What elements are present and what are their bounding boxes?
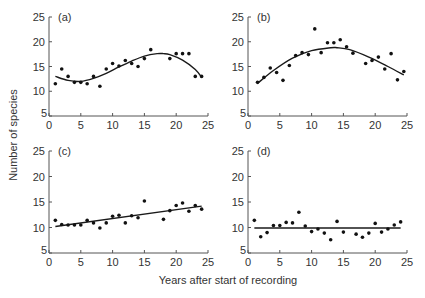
data-point: [136, 65, 140, 69]
x-tick-label: 20: [170, 119, 182, 131]
data-point: [181, 52, 185, 56]
x-tick-label: 15: [138, 119, 150, 131]
data-point: [174, 204, 178, 208]
data-point: [193, 204, 197, 208]
data-point: [313, 27, 317, 31]
x-tick-label: 25: [401, 256, 413, 268]
data-point: [265, 231, 269, 235]
y-tick-label: 15: [232, 196, 244, 208]
x-tick-label: 10: [106, 256, 118, 268]
data-point: [329, 238, 333, 242]
data-point: [361, 235, 365, 239]
data-point: [383, 67, 387, 71]
fit-line: [55, 206, 201, 226]
panel-label: (d): [257, 145, 270, 157]
y-tick-label: 15: [33, 196, 45, 208]
data-point: [117, 213, 121, 217]
data-point: [143, 199, 147, 203]
data-point: [316, 227, 320, 231]
y-tick-label: 20: [33, 171, 45, 183]
data-point: [54, 82, 58, 86]
data-point: [288, 64, 292, 68]
y-tick-label: 25: [232, 145, 244, 157]
x-tick-label: 5: [277, 119, 283, 131]
data-point: [149, 48, 153, 52]
data-point: [332, 41, 336, 45]
data-point: [111, 214, 115, 218]
x-tick-label: 10: [305, 119, 317, 131]
x-tick-label: 5: [78, 119, 84, 131]
x-tick-label: 0: [245, 119, 251, 131]
data-point: [200, 75, 204, 79]
panel-a: 5101520250510152025(a): [33, 11, 214, 131]
x-tick-label: 20: [369, 119, 381, 131]
data-point: [124, 59, 128, 63]
data-point: [259, 235, 263, 239]
data-point: [291, 221, 295, 225]
data-point: [60, 223, 64, 227]
data-point: [79, 223, 83, 227]
data-point: [92, 221, 96, 225]
data-point: [342, 230, 346, 234]
y-tick-label: 20: [33, 36, 45, 48]
panel-label: (c): [58, 145, 71, 157]
fit-line: [55, 53, 201, 81]
data-point: [92, 75, 96, 79]
data-point: [380, 230, 384, 234]
data-point: [300, 51, 304, 55]
data-point: [73, 223, 77, 227]
x-tick-label: 5: [277, 256, 283, 268]
y-tick-label: 20: [232, 36, 244, 48]
data-point: [392, 223, 396, 227]
axes: [248, 17, 407, 116]
data-point: [402, 70, 406, 74]
x-tick-label: 5: [78, 256, 84, 268]
data-point: [319, 51, 323, 55]
y-axis-title: Number of species: [7, 89, 19, 181]
y-tick-label: 25: [33, 11, 45, 23]
data-point: [85, 219, 89, 223]
data-point: [66, 75, 70, 79]
panel-c: 5101520250510152025(c): [33, 145, 214, 268]
data-point: [187, 52, 191, 56]
data-point: [377, 55, 381, 59]
panel-d: 5101520250510152025(d): [232, 145, 413, 268]
data-point: [130, 62, 134, 66]
data-point: [253, 219, 257, 223]
data-point: [124, 221, 128, 225]
y-tick-label: 25: [232, 11, 244, 23]
data-point: [117, 64, 121, 68]
axes: [49, 17, 208, 116]
axes: [248, 151, 407, 253]
data-point: [310, 230, 314, 234]
data-point: [136, 216, 140, 220]
data-point: [73, 81, 77, 85]
data-point: [351, 51, 355, 55]
x-tick-label: 0: [46, 256, 52, 268]
x-tick-label: 0: [245, 256, 251, 268]
data-point: [367, 231, 371, 235]
x-tick-label: 15: [337, 256, 349, 268]
data-point: [307, 53, 311, 57]
x-tick-label: 20: [369, 256, 381, 268]
data-point: [364, 62, 368, 66]
data-point: [174, 52, 178, 56]
data-point: [98, 85, 102, 89]
axes: [49, 151, 208, 253]
data-point: [297, 210, 301, 214]
data-point: [326, 41, 330, 45]
data-point: [278, 224, 282, 228]
data-point: [130, 214, 134, 218]
data-point: [66, 223, 70, 227]
data-point: [162, 218, 166, 222]
y-tick-label: 10: [232, 222, 244, 234]
y-tick-label: 25: [33, 145, 45, 157]
x-tick-label: 25: [202, 256, 214, 268]
x-tick-label: 0: [46, 119, 52, 131]
panel-label: (a): [58, 11, 71, 23]
y-tick-label: 5: [240, 107, 246, 119]
data-point: [256, 81, 260, 85]
data-point: [168, 209, 172, 213]
data-point: [168, 57, 172, 61]
data-point: [79, 81, 83, 85]
